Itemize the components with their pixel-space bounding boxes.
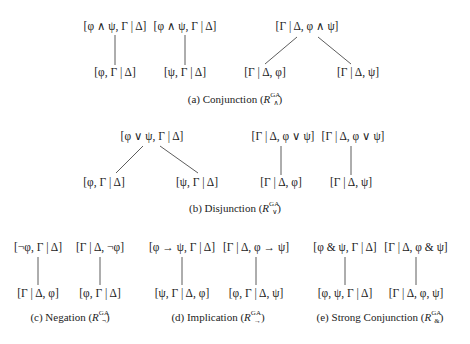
caption-a: (a) Conjunction (RGA∧) — [188, 92, 282, 107]
caption-e: (e) Strong Conjunction (RGA&) — [317, 310, 444, 325]
node-d1-root: [φ → ψ, Γ | Δ] — [149, 242, 215, 254]
node-c1-child: [Γ | Δ, φ] — [17, 288, 59, 300]
node-b2-child: [Γ | Δ, φ] — [260, 177, 302, 189]
node-c1-root: [¬φ, Γ | Δ] — [14, 242, 62, 254]
caption-b: (b) Disjunction (RGA∨) — [189, 201, 281, 216]
node-a2-child: [ψ, Γ | Δ] — [164, 67, 206, 79]
edge-b1-left — [116, 146, 143, 173]
node-b3-root: [Γ | Δ, φ ∨ ψ] — [322, 131, 385, 143]
node-c2-child: [φ, Γ | Δ] — [79, 288, 121, 300]
node-a3-child-right: [Γ | Δ, ψ] — [337, 67, 379, 79]
node-a1-child: [φ, Γ | Δ] — [94, 67, 136, 79]
node-b3-child: [Γ | Δ, ψ] — [330, 177, 372, 189]
edge-a3-right — [318, 37, 351, 64]
node-d2-child: [φ, Γ | Δ, ψ] — [229, 288, 283, 300]
node-b1-child-left: [φ, Γ | Δ] — [83, 177, 125, 189]
node-a3-child-left: [Γ | Δ, φ] — [244, 67, 286, 79]
edge-a3-left — [265, 37, 297, 64]
node-c2-root: [Γ | Δ, ¬φ] — [76, 242, 124, 254]
node-a3-root: [Γ | Δ, φ ∧ ψ] — [276, 21, 339, 33]
node-d2-root: [Γ | Δ, φ → ψ] — [223, 242, 289, 254]
node-a2-root: [φ ∧ ψ, Γ | Δ] — [154, 21, 217, 33]
node-a1-root: [φ ∧ ψ, Γ | Δ] — [84, 21, 147, 33]
node-e1-root: [φ & ψ, Γ | Δ] — [313, 242, 376, 254]
caption-c: (c) Negation (RGA¬) — [30, 310, 109, 325]
node-b1-root: [φ ∨ ψ, Γ | Δ] — [121, 131, 184, 143]
node-b1-child-right: [ψ, Γ | Δ] — [176, 177, 218, 189]
node-b2-root: [Γ | Δ, φ ∨ ψ] — [252, 131, 315, 143]
node-d1-child: [ψ, Γ | Δ, φ] — [155, 288, 209, 300]
node-e2-root: [Γ | Δ, φ & ψ] — [384, 242, 447, 254]
node-e2-child: [Γ | Δ, φ, ψ] — [389, 288, 443, 300]
caption-d: (d) Implication (RGA→) — [171, 310, 264, 325]
edge-b1-right — [160, 146, 198, 173]
node-e1-child: [φ, ψ, Γ | Δ] — [318, 288, 372, 300]
